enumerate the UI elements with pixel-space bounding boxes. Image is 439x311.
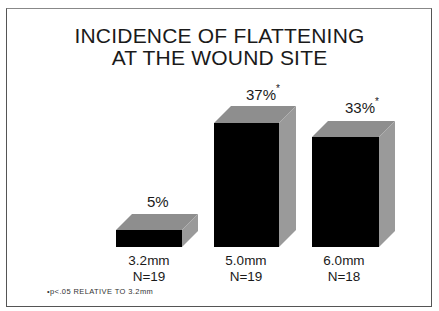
x-label-3.2mm: 3.2mm N=19 xyxy=(109,253,189,285)
x-label-5.0mm: 5.0mm N=19 xyxy=(206,253,286,285)
x-label-6.0mm: 6.0mm N=18 xyxy=(304,253,384,285)
value-label-5.0mm: 37%* xyxy=(246,85,280,103)
bar-6.0mm xyxy=(312,121,395,247)
footnote: •p<.05 RELATIVE TO 3.2mm xyxy=(47,287,153,296)
bar-3.2mm xyxy=(116,214,198,247)
bar-5.0mm xyxy=(214,106,296,247)
value-label-6.0mm: 33%* xyxy=(345,98,379,116)
value-label-3.2mm: 5% xyxy=(147,192,169,210)
